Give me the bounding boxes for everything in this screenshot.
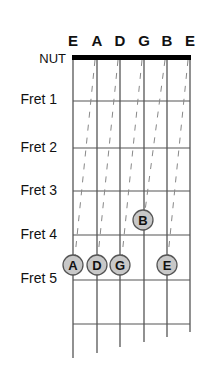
string-label-g: G <box>138 32 150 49</box>
note-dot-g: G <box>110 255 130 275</box>
dot-letter: B <box>138 213 147 228</box>
nut-bar <box>72 55 191 60</box>
fretboard-diagram: EADGBE NUT Fret 1Fret 2Fret 3Fret 4Fret … <box>0 0 204 380</box>
fret-label: Fret 4 <box>20 226 57 242</box>
note-dot-d: D <box>87 255 107 275</box>
note-dot-b: B <box>133 210 153 230</box>
string-label-b: B <box>162 32 173 49</box>
note-dot-e: E <box>157 255 177 275</box>
string-label-a: A <box>92 32 103 49</box>
guide-dashed-line <box>168 60 188 256</box>
fret-label: Fret 1 <box>20 91 57 107</box>
string-label-d: D <box>115 32 126 49</box>
fret-labels: Fret 1Fret 2Fret 3Fret 4Fret 5 <box>20 91 57 286</box>
string-label-e: E <box>68 32 78 49</box>
nut-label: NUT <box>39 51 66 66</box>
fret-label: Fret 2 <box>20 139 57 155</box>
guide-dashed-line <box>145 60 165 211</box>
guide-dashed-line <box>98 60 118 256</box>
dot-letter: G <box>115 258 125 273</box>
dot-letter: D <box>92 258 101 273</box>
fret-label: Fret 3 <box>20 182 57 198</box>
guide-dashed-line <box>75 60 95 256</box>
string-labels: EADGBE <box>68 32 195 49</box>
fret-lines <box>73 101 190 324</box>
fret-label: Fret 5 <box>20 270 57 286</box>
note-dot-a: A <box>63 255 83 275</box>
dot-letter: E <box>163 258 172 273</box>
guide-lines <box>75 60 188 256</box>
string-label-e: E <box>185 32 195 49</box>
dot-letter: A <box>68 258 78 273</box>
